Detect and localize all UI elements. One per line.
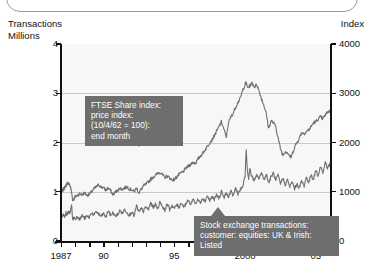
left-axis-title-line1: Transactions <box>8 18 62 29</box>
callout-transactions-tail <box>211 207 225 216</box>
callout-transactions-label: Stock exchange transactions: customer: e… <box>194 216 339 256</box>
right-axis-tick-label: 0 <box>339 235 344 246</box>
right-axis-tick <box>331 93 336 94</box>
x-axis-tick <box>146 242 147 247</box>
line-stock-exchange-transactions <box>61 150 330 220</box>
callout-ftse-tail <box>132 138 146 147</box>
x-axis-tick <box>61 242 62 247</box>
left-axis-tick-label: 1 <box>53 186 58 197</box>
left-axis-title-line2: Millions <box>8 30 40 41</box>
right-axis-title: Index <box>341 18 364 30</box>
x-axis-tick <box>174 242 175 247</box>
x-axis-tick <box>188 242 189 247</box>
right-axis-tick-label: 1000 <box>339 186 360 197</box>
panel-border <box>6 0 358 12</box>
x-axis-tick <box>75 242 76 247</box>
right-axis-tick-label: 4000 <box>339 38 360 49</box>
left-axis-tick-label: 3 <box>53 87 58 98</box>
chart-figure: TransactionsMillions Index 01234 0100020… <box>0 0 369 279</box>
right-axis-tick <box>331 43 336 44</box>
left-axis-tick-label: 2 <box>53 137 58 148</box>
x-axis-tick <box>132 242 133 247</box>
x-axis-tick <box>160 242 161 247</box>
x-axis-tick <box>89 242 90 247</box>
left-axis-tick-label: 4 <box>53 38 58 49</box>
left-axis-tick-label: 0 <box>53 235 58 246</box>
right-axis-tick <box>331 191 336 192</box>
x-axis-tick <box>118 242 119 247</box>
x-axis-tick <box>103 242 104 247</box>
right-axis-tick-label: 2000 <box>339 137 360 148</box>
right-axis-tick-label: 3000 <box>339 87 360 98</box>
x-axis-tick-label: 1987 <box>50 250 71 261</box>
right-axis-tick <box>331 142 336 143</box>
x-axis-tick-label: 95 <box>169 250 180 261</box>
x-axis-tick-label: 90 <box>98 250 109 261</box>
